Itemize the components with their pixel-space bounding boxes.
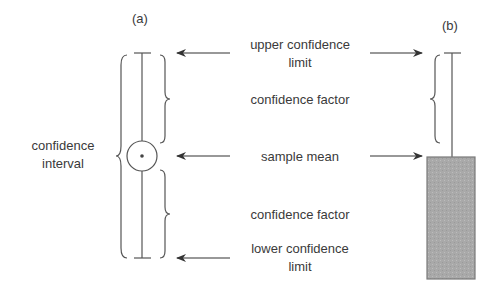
lower-confidence-factor-brace-a [160,170,170,258]
upper-confidence-factor-brace-a [160,55,170,143]
confidence-factor-brace-b [430,55,440,143]
lower-limit-line2: limit [233,259,367,274]
confidence-factor-upper-label: confidence factor [233,92,367,107]
confidence-interval-line1: confidence [18,138,108,153]
upper-limit-line2: limit [233,55,367,70]
panel-b-bar-chart [427,53,475,279]
upper-confidence-limit-label: upper confidence limit [233,37,367,70]
lower-confidence-limit-label: lower confidence limit [233,241,367,274]
confidence-interval-label: confidence interval [18,138,108,171]
lower-limit-line1: lower confidence [233,241,367,256]
sample-mean-dot [140,154,144,158]
panel-a-label: (a) [132,11,148,26]
confidence-interval-line2: interval [18,156,108,171]
upper-limit-line1: upper confidence [233,37,367,52]
sample-mean-bar [427,157,475,279]
panel-b-label: (b) [442,18,458,33]
confidence-factor-lower-label: confidence factor [233,207,367,222]
confidence-interval-brace [116,55,127,258]
sample-mean-label: sample mean [233,149,367,164]
